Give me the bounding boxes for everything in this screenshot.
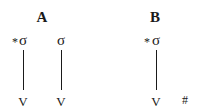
association-line-a1: [23, 50, 24, 90]
vowel-segment-a2: V: [56, 95, 65, 108]
vowel-segment-a1: V: [18, 95, 27, 108]
panel-b-label: B: [150, 10, 160, 25]
ungrammatical-star-b1: *: [144, 36, 150, 48]
ungrammatical-star-a1: *: [12, 36, 18, 48]
panel-a-label: A: [37, 10, 48, 25]
association-line-b1: [156, 50, 157, 90]
syllable-node-b1: σ: [152, 33, 160, 48]
word-boundary-symbol: #: [182, 94, 188, 106]
syllable-node-a2: σ: [57, 33, 65, 48]
association-line-a2: [61, 50, 62, 90]
vowel-segment-b1: V: [151, 95, 160, 108]
syllable-node-a1: σ: [19, 33, 27, 48]
